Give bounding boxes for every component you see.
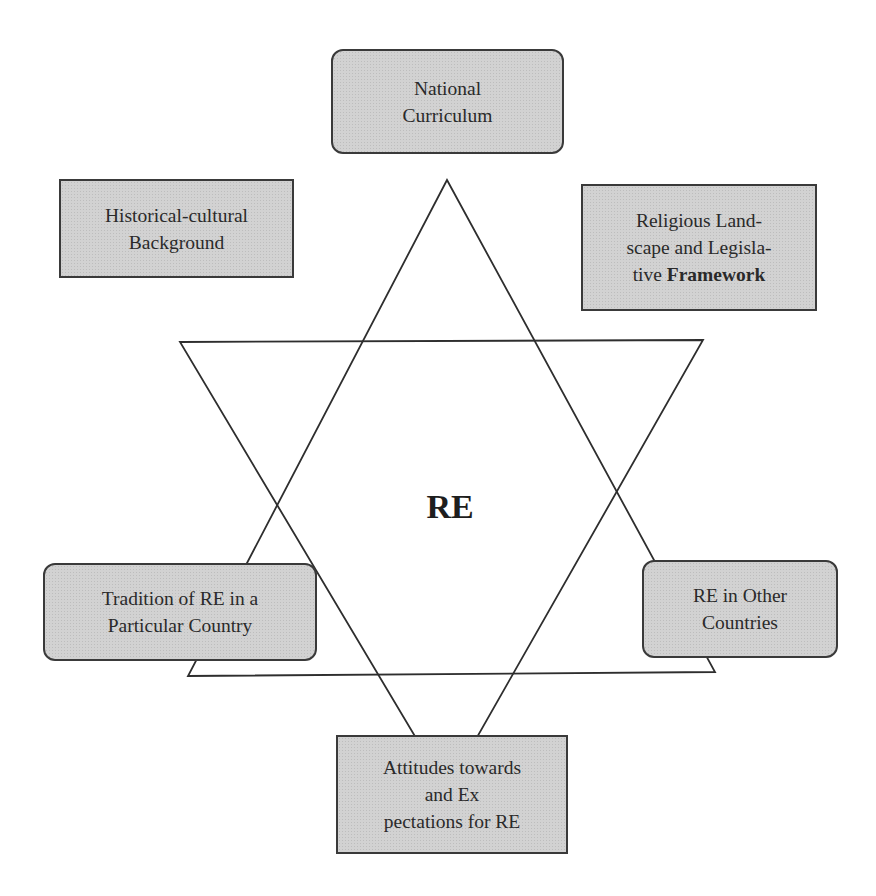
node-historical-cultural-background: Historical-cultural Background <box>59 179 294 278</box>
node-text-line: Tradition of RE in a <box>102 585 258 612</box>
node-religious-landscape: Religious Land- scape and Legisla- tive … <box>581 184 817 311</box>
node-text-line: pectations for RE <box>383 808 521 835</box>
node-text-line: Religious Land- <box>626 207 771 234</box>
node-text-line: tive Framework <box>626 261 771 288</box>
node-text-line: and Ex <box>383 781 521 808</box>
node-text-line: Background <box>105 229 248 256</box>
node-text-line: RE in Other <box>693 582 787 609</box>
node-attitudes-expectations: Attitudes towards and Ex pectations for … <box>336 735 568 854</box>
node-text-line: Curriculum <box>403 102 493 129</box>
node-text-line: Countries <box>693 609 787 636</box>
node-tradition-of-re: Tradition of RE in a Particular Country <box>43 563 317 661</box>
center-label: RE <box>400 488 500 526</box>
node-national-curriculum: National Curriculum <box>331 49 564 154</box>
node-text-line: Attitudes towards <box>383 754 521 781</box>
node-text-line: National <box>403 75 493 102</box>
node-text-bold: Framework <box>667 264 766 285</box>
node-text-line: scape and Legisla- <box>626 234 771 261</box>
node-text-line: Historical-cultural <box>105 202 248 229</box>
node-re-in-other-countries: RE in Other Countries <box>642 560 838 658</box>
node-text-prefix: tive <box>633 264 667 285</box>
node-text-line: Particular Country <box>102 612 258 639</box>
